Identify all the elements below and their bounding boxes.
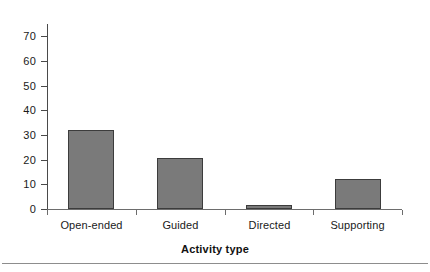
y-axis-tick-label: 30 — [6, 130, 36, 141]
bar-directed — [246, 205, 292, 209]
x-axis-tick — [47, 210, 48, 215]
y-axis-tick-label: 40 — [6, 105, 36, 116]
bar-open-ended — [68, 130, 114, 209]
y-axis-tick — [41, 135, 47, 136]
y-axis-tick — [41, 184, 47, 185]
x-axis-category-label: Open-ended — [47, 219, 136, 231]
y-axis-tick-label: 70 — [6, 31, 36, 42]
footer-divider — [2, 263, 428, 264]
y-axis-line — [47, 24, 48, 210]
y-axis-tick-label: 20 — [6, 155, 36, 166]
x-axis-title: Activity type — [0, 243, 430, 255]
y-axis-tick — [41, 86, 47, 87]
bar-chart-figure: 010203040506070 Open-endedGuidedDirected… — [0, 0, 430, 272]
bar-guided — [157, 158, 203, 209]
y-axis-tick — [41, 160, 47, 161]
y-axis-tick-label: 50 — [6, 81, 36, 92]
y-axis-tick — [41, 36, 47, 37]
y-axis-tick-label: 0 — [6, 204, 36, 215]
y-axis-tick-label: 60 — [6, 56, 36, 67]
bar-supporting — [335, 179, 381, 209]
x-axis-category-label: Guided — [136, 219, 225, 231]
x-axis-category-label: Directed — [225, 219, 314, 231]
y-axis-tick — [41, 61, 47, 62]
x-axis-tick — [225, 210, 226, 215]
y-axis-tick-label: 10 — [6, 179, 36, 190]
x-axis-category-label: Supporting — [313, 219, 402, 231]
x-axis-tick — [136, 210, 137, 215]
x-axis-tick — [313, 210, 314, 215]
y-axis-tick — [41, 110, 47, 111]
x-axis-tick — [402, 210, 403, 215]
